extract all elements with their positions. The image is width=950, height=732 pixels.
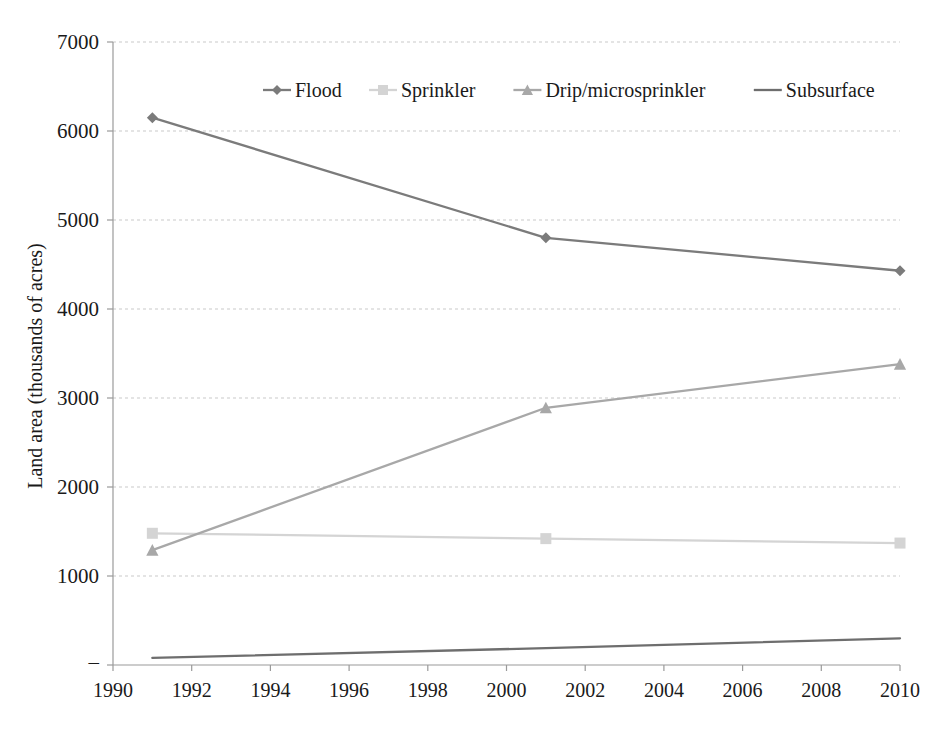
- legend-item-drip-microsprinkler[interactable]: Drip/microsprinkler: [513, 79, 705, 102]
- data-point-marker-square: [895, 538, 906, 549]
- series-line-path: [152, 118, 900, 271]
- y-axis-tick-labels: –1000200030004000500060007000: [57, 30, 100, 674]
- x-axis-tick-label: 2008: [801, 679, 841, 701]
- legend-item-label: Drip/microsprinkler: [545, 79, 705, 102]
- line-chart: –1000200030004000500060007000 1990199219…: [0, 0, 950, 732]
- axes: [107, 42, 900, 671]
- data-point-marker-diamond: [895, 265, 906, 276]
- y-axis-tick-label: 2000: [57, 475, 99, 499]
- legend-item-label: Sprinkler: [401, 79, 476, 102]
- y-axis-tick-label: 4000: [57, 297, 99, 321]
- y-axis-tick-label: 3000: [57, 386, 99, 410]
- x-axis-tick-label: 2002: [565, 679, 605, 701]
- x-axis-tick-label: 1990: [93, 679, 133, 701]
- data-point-marker-diamond: [540, 232, 551, 243]
- y-axis-title: Land area (thousands of acres): [24, 243, 47, 488]
- legend-marker-square: [378, 85, 388, 95]
- x-axis-tick-label: 1998: [408, 679, 448, 701]
- data-point-marker-square: [147, 528, 158, 539]
- x-axis-tick-label: 2006: [723, 679, 763, 701]
- legend-item-subsurface[interactable]: Subsurface: [754, 79, 875, 101]
- legend-item-label: Subsurface: [786, 79, 875, 101]
- chart-container: –1000200030004000500060007000 1990199219…: [0, 0, 950, 732]
- data-point-marker-diamond: [147, 112, 158, 123]
- x-axis-tick-label: 1992: [172, 679, 212, 701]
- y-axis-tick-label: 7000: [57, 30, 99, 54]
- y-axis-tick-label: 1000: [57, 564, 99, 588]
- data-point-marker-triangle: [146, 544, 158, 556]
- series-line-path: [152, 533, 900, 543]
- chart-legend: FloodSprinklerDrip/microsprinklerSubsurf…: [263, 79, 875, 102]
- y-axis-tick-label: 6000: [57, 119, 99, 143]
- series-flood: [147, 112, 906, 276]
- data-point-marker-square: [540, 533, 551, 544]
- legend-marker-diamond: [272, 85, 282, 95]
- x-axis-tick-label: 1996: [329, 679, 369, 701]
- x-axis-tick-label: 1994: [250, 679, 290, 701]
- series-line-path: [152, 638, 900, 658]
- legend-item-label: Flood: [295, 79, 342, 101]
- x-axis-tick-label: 2010: [880, 679, 920, 701]
- series-sprinkler: [147, 528, 906, 549]
- x-axis-tick-labels: 1990199219941996199820002002200420062008…: [93, 679, 920, 701]
- series-drip-microsprinkler: [146, 358, 906, 556]
- y-axis-tick-label: –: [88, 650, 100, 674]
- x-axis-tick-label: 2000: [487, 679, 527, 701]
- y-axis-tick-label: 5000: [57, 208, 99, 232]
- x-axis-tick-label: 2004: [644, 679, 684, 701]
- legend-item-sprinkler[interactable]: Sprinkler: [369, 79, 476, 102]
- series-subsurface: [152, 638, 900, 658]
- gridlines: [113, 42, 900, 576]
- legend-item-flood[interactable]: Flood: [263, 79, 342, 101]
- series-line-path: [152, 364, 900, 550]
